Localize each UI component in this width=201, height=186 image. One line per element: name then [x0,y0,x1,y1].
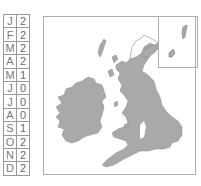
month-value: 2 [17,41,30,54]
month-label: J [4,15,17,28]
table-row: D2 [4,162,30,175]
outer-hebrides-island [98,39,106,57]
month-value: 0 [17,81,30,94]
table-row: J2 [4,15,30,28]
month-label: N [4,148,17,161]
shetland-islands-map [159,17,199,69]
month-label: O [4,135,17,148]
month-value: 1 [17,122,30,135]
table-row: M2 [4,41,30,54]
islay-island [108,69,114,77]
month-label: A [4,55,17,68]
month-label: A [4,108,17,121]
distribution-map [43,16,196,175]
month-value: 2 [17,55,30,68]
month-label: M [4,41,17,54]
table-row: O2 [4,135,30,148]
table-row: S1 [4,122,30,135]
table-row: N2 [4,148,30,161]
inner-hebrides-island [112,55,118,63]
month-value: 2 [17,162,30,175]
month-label: M [4,68,17,81]
month-value: 2 [17,135,30,148]
month-label: J [4,95,17,108]
anglesey-island [124,123,129,128]
month-label: F [4,28,17,41]
table-row: J0 [4,95,30,108]
month-label: J [4,81,17,94]
month-label: S [4,122,17,135]
shetland-inset-box [158,16,198,68]
month-value: 0 [17,95,30,108]
month-value: 2 [17,148,30,161]
monthly-abundance-table: J2 F2 M2 A2 M1 J0 J0 A0 S1 O2 N2 D2 [3,14,30,176]
table-row: A2 [4,55,30,68]
month-value: 2 [17,28,30,41]
shetland-island [182,25,187,39]
ireland-landmass [56,77,106,143]
month-label: D [4,162,17,175]
table-row: M1 [4,68,30,81]
table-row: F2 [4,28,30,41]
table-row: J0 [4,81,30,94]
orkney-island [169,49,175,57]
month-value: 0 [17,108,30,121]
month-value: 1 [17,68,30,81]
table-row: A0 [4,108,30,121]
isle-of-man-island [114,101,118,107]
month-value: 2 [17,15,30,28]
